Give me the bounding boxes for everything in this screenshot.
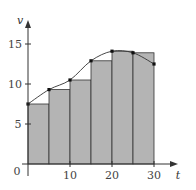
y-axis-arrow-icon — [25, 20, 31, 28]
bars-group — [28, 51, 154, 164]
x-tick-label-20: 20 — [105, 169, 119, 182]
data-point — [47, 88, 50, 91]
y-axis-label: v — [17, 14, 24, 27]
data-point — [131, 51, 134, 54]
bar — [112, 51, 133, 164]
x-tick-label-30: 30 — [147, 169, 161, 182]
x-tick-label-10: 10 — [63, 169, 77, 182]
bar — [133, 53, 154, 164]
data-point — [152, 62, 155, 65]
bar — [70, 80, 91, 164]
data-point — [68, 78, 71, 81]
y-tick-label-5: 5 — [15, 118, 22, 131]
bar — [49, 90, 70, 164]
x-axis-arrow-icon — [170, 161, 178, 167]
bar — [28, 104, 49, 164]
origin-label: 0 — [14, 165, 21, 178]
riemann-sum-chart: 0 10 20 30 5 10 15 t v — [0, 0, 196, 190]
y-tick-label-10: 10 — [8, 78, 22, 91]
x-axis-label: t — [176, 169, 181, 182]
y-tick-label-15: 15 — [8, 38, 22, 51]
data-point — [89, 59, 92, 62]
data-point — [110, 50, 113, 53]
bar — [91, 61, 112, 164]
